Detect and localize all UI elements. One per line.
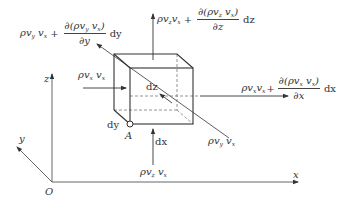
x-outflow-expression-body: ρvxvx + ∂(ρvx vx) ∂x dx xyxy=(241,75,336,101)
point-a-label: A xyxy=(125,131,132,141)
y-inflow-label: ρvy vx xyxy=(208,136,235,147)
dy-label: dy xyxy=(107,120,119,130)
dz-label: dz xyxy=(146,82,158,92)
diagram-canvas: z x y O A dx dy dz ρvx vx ρvz vx ρvy vx … xyxy=(0,0,338,202)
dz-pointer-arrow xyxy=(160,94,172,103)
x-inflow-label: ρvx vx xyxy=(78,70,105,81)
z-axis-label: z xyxy=(44,74,49,84)
y-axis xyxy=(17,147,52,182)
y-axis-label: y xyxy=(19,134,25,144)
x-axis-label: x xyxy=(293,170,299,180)
point-a-marker xyxy=(127,121,133,127)
dx-label: dx xyxy=(155,137,167,147)
origin-label: O xyxy=(45,187,53,197)
y-outflow-expression: ρvy vx + ∂(ρvy vx) ∂y dy xyxy=(20,20,122,46)
z-inflow-label: ρvz vx xyxy=(140,167,167,178)
z-outflow-expression: ρvzvx + ∂(ρvz vx) ∂z dz xyxy=(157,6,255,32)
